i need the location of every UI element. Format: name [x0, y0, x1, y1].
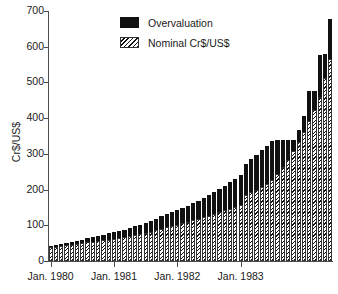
bar-segment-nominal	[112, 239, 116, 261]
bar-segment-nominal	[281, 167, 285, 261]
bar-segment-nominal	[122, 237, 126, 261]
x-axis-line	[48, 261, 333, 262]
bar-segment-nominal	[149, 232, 153, 261]
bar-segment-overvaluation	[91, 237, 95, 242]
bar-segment-nominal	[80, 243, 84, 261]
bar-segment-nominal	[154, 230, 158, 261]
bar-segment-overvaluation	[207, 195, 211, 215]
y-tick-label: 500	[16, 76, 44, 86]
bar-segment-overvaluation	[233, 179, 237, 207]
bar-segment-overvaluation	[85, 238, 89, 242]
bar-segment-overvaluation	[96, 236, 100, 241]
bar-segment-nominal	[328, 59, 332, 261]
bar-segment-nominal	[207, 216, 211, 261]
y-tick-mark	[44, 261, 48, 262]
y-tick-label: 0	[16, 255, 44, 265]
bar	[128, 228, 132, 261]
bar-segment-nominal	[59, 246, 63, 261]
bar-segment-overvaluation	[133, 226, 137, 235]
bar	[107, 233, 111, 261]
legend-label-overvaluation: Overvaluation	[148, 17, 213, 29]
x-tick-mark	[51, 262, 52, 267]
bar-segment-nominal	[233, 207, 237, 261]
bar-segment-nominal	[307, 121, 311, 261]
bar-segment-overvaluation	[159, 216, 163, 229]
bar	[64, 243, 68, 261]
bar	[96, 236, 100, 261]
legend-swatch-overvaluation-icon	[120, 17, 139, 28]
x-tick-mark	[177, 262, 178, 267]
bar-segment-overvaluation	[281, 140, 285, 168]
bar	[244, 164, 248, 262]
bar-segment-overvaluation	[291, 140, 295, 151]
bar-segment-nominal	[228, 209, 232, 262]
bar	[323, 54, 327, 261]
bar	[180, 208, 184, 261]
bar-segment-overvaluation	[117, 231, 121, 239]
y-tick-label: 200	[16, 184, 44, 194]
bar	[217, 189, 221, 261]
bar-segment-overvaluation	[196, 201, 200, 219]
bar	[75, 241, 79, 261]
bar-segment-nominal	[286, 160, 290, 261]
bar	[122, 230, 126, 261]
bar	[328, 19, 332, 261]
x-tick-mark	[114, 262, 115, 267]
bar	[212, 192, 216, 261]
bar-segment-nominal	[64, 245, 68, 261]
bar	[307, 91, 311, 261]
bar-segment-overvaluation	[228, 182, 232, 208]
bar-segment-overvaluation	[312, 91, 316, 110]
bar-segment-nominal	[144, 233, 148, 261]
bar-segment-overvaluation	[49, 246, 53, 247]
bar-segment-nominal	[312, 110, 316, 261]
bar-segment-overvaluation	[170, 212, 174, 226]
bar	[196, 201, 200, 261]
bar-segment-nominal	[70, 245, 74, 261]
bar	[275, 140, 279, 261]
bar	[117, 231, 121, 261]
bar	[249, 159, 253, 261]
bar-segment-overvaluation	[70, 242, 74, 245]
bar	[286, 140, 290, 261]
bar-segment-nominal	[128, 236, 132, 261]
bar-segment-nominal	[191, 220, 195, 261]
bar-segment-overvaluation	[122, 230, 126, 238]
bar	[70, 242, 74, 261]
bar	[170, 212, 174, 261]
bar	[186, 206, 190, 261]
bar-segment-overvaluation	[239, 175, 243, 204]
bar-segment-nominal	[254, 190, 258, 261]
bar	[191, 203, 195, 261]
bar-segment-overvaluation	[249, 159, 253, 192]
bar-segment-nominal	[96, 241, 100, 261]
bar-segment-overvaluation	[180, 208, 184, 223]
bar	[133, 226, 137, 261]
bar-segment-nominal	[133, 235, 137, 261]
bar-segment-nominal	[117, 238, 121, 261]
bar	[291, 140, 295, 261]
bar-segment-nominal	[180, 223, 184, 261]
bar-segment-nominal	[107, 240, 111, 261]
bar-segment-nominal	[291, 151, 295, 261]
y-tick-label: 700	[16, 5, 44, 15]
bar-segment-nominal	[91, 242, 95, 261]
bar	[260, 150, 264, 261]
bar-segment-nominal	[275, 174, 279, 261]
bar-segment-nominal	[249, 192, 253, 261]
bar	[175, 210, 179, 261]
bar-segment-overvaluation	[191, 203, 195, 220]
bar	[149, 221, 153, 261]
bar-segment-overvaluation	[175, 210, 179, 225]
bar-segment-overvaluation	[318, 55, 322, 97]
bar-segment-overvaluation	[107, 233, 111, 239]
bar-segment-overvaluation	[165, 214, 169, 227]
bar-segment-overvaluation	[286, 140, 290, 160]
legend-label-nominal: Nominal Cr$/US$	[148, 37, 230, 49]
bar	[54, 245, 58, 261]
bar-segment-overvaluation	[154, 219, 158, 231]
bar	[297, 130, 301, 261]
bar-segment-overvaluation	[244, 164, 248, 195]
bar-segment-overvaluation	[297, 130, 301, 141]
bar-segment-nominal	[323, 78, 327, 261]
